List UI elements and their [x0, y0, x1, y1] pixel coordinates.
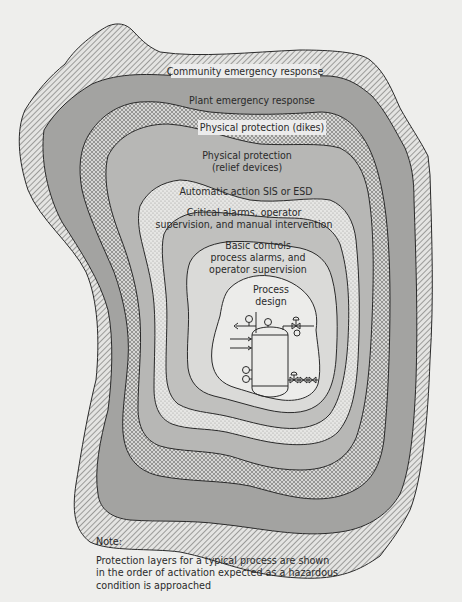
svg-text:Automatic action SIS or ESD: Automatic action SIS or ESD: [179, 185, 312, 197]
note-title: Note:: [96, 536, 426, 549]
svg-text:operator supervision: operator supervision: [209, 263, 307, 275]
label-physical-protection-relief: Physical protection (relief devices): [202, 149, 292, 173]
svg-text:Physical protection: Physical protection: [202, 149, 292, 161]
protection-layers-diagram: Community emergency response Plant emerg…: [0, 0, 462, 602]
label-community-emergency-response: Community emergency response: [167, 64, 324, 78]
note-line-2: in the order of activation expected as a…: [96, 567, 426, 580]
figure-note: Note: Protection layers for a typical pr…: [96, 536, 426, 592]
note-line-1: Protection layers for a typical process …: [96, 555, 426, 568]
label-plant-emergency-response: Plant emergency response: [189, 93, 315, 107]
svg-text:Physical protection (dikes): Physical protection (dikes): [200, 121, 324, 133]
label-automatic-action-sis: Automatic action SIS or ESD: [179, 185, 312, 197]
svg-text:process alarms, and: process alarms, and: [210, 251, 305, 263]
svg-text:supervision, and manual interv: supervision, and manual intervention: [156, 218, 333, 230]
svg-text:design: design: [255, 295, 286, 307]
note-line-3: condition is approached: [96, 580, 426, 593]
label-physical-protection-dikes: Physical protection (dikes): [198, 120, 326, 135]
svg-text:Process: Process: [253, 283, 289, 295]
label-process-design: Process design: [253, 283, 289, 307]
svg-text:Basic controls: Basic controls: [225, 239, 291, 251]
svg-text:Plant emergency response: Plant emergency response: [189, 94, 315, 106]
svg-text:Critical alarms, operator: Critical alarms, operator: [187, 206, 302, 218]
svg-text:(relief devices): (relief devices): [212, 161, 282, 173]
svg-text:Community emergency response: Community emergency response: [167, 65, 324, 77]
